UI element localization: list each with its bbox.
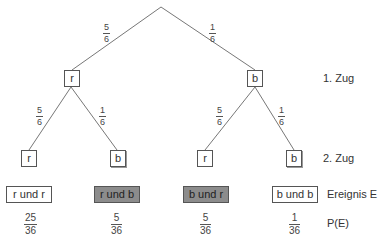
prob-b-und-b: 1 36 xyxy=(289,213,300,236)
node-first-draw-r: r xyxy=(64,70,80,87)
node-second-draw-br: r xyxy=(197,150,213,167)
branch-prob-b-b: 1 6 xyxy=(278,106,285,127)
label-second-draw: 2. Zug xyxy=(323,152,354,164)
label-first-draw: 1. Zug xyxy=(323,72,354,84)
node-second-draw-bb: b xyxy=(286,150,302,167)
branch-prob-root-b: 1 6 xyxy=(209,23,216,44)
event-b-und-b: b und b xyxy=(272,186,318,203)
prob-r-und-r: 25 36 xyxy=(24,213,37,236)
event-b-und-r: b und r xyxy=(183,186,229,203)
label-probability: P(E) xyxy=(327,217,349,229)
prob-r-und-b: 5 36 xyxy=(111,213,122,236)
event-r-und-r: r und r xyxy=(6,186,52,203)
label-event: Ereignis E xyxy=(327,188,377,200)
branch-prob-r-b: 1 6 xyxy=(99,106,106,127)
prob-b-und-r: 5 36 xyxy=(200,213,211,236)
branch-prob-b-r: 5 6 xyxy=(216,106,223,127)
tree-branches xyxy=(0,0,380,245)
node-second-draw-rr: r xyxy=(21,150,37,167)
event-r-und-b: r und b xyxy=(94,186,140,203)
branch-prob-root-r: 5 6 xyxy=(103,23,110,44)
branch-prob-r-r: 5 6 xyxy=(36,106,43,127)
node-second-draw-rb: b xyxy=(110,150,126,167)
node-first-draw-b: b xyxy=(247,70,263,87)
